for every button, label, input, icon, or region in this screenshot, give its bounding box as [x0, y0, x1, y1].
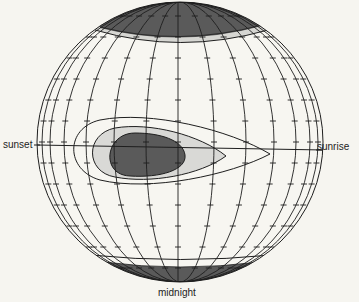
- globe-diagram: [0, 0, 359, 302]
- sunset-label: sunset: [3, 140, 32, 150]
- midnight-label: midnight: [158, 288, 196, 298]
- sunrise-label: sunrise: [317, 142, 349, 152]
